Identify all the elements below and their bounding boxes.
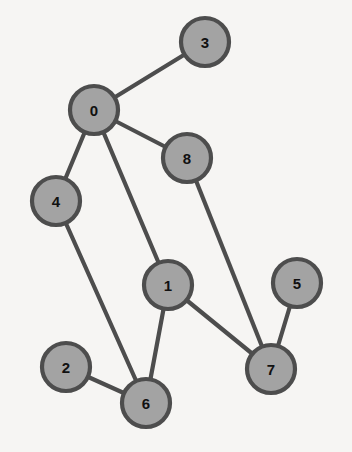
node-layer: 012345678 [32,18,321,427]
graph-node-8[interactable]: 8 [163,134,211,182]
graph-node-4[interactable]: 4 [32,177,80,225]
graph-canvas: 012345678 [0,0,352,452]
graph-node-0[interactable]: 0 [70,86,118,134]
graph-node-circle-6[interactable] [122,379,170,427]
graph-node-circle-3[interactable] [181,18,229,66]
graph-node-6[interactable]: 6 [122,379,170,427]
graph-edge-0-1 [94,110,168,285]
graph-node-7[interactable]: 7 [247,345,295,393]
graph-figure: 012345678 [0,0,352,452]
graph-node-3[interactable]: 3 [181,18,229,66]
graph-node-circle-4[interactable] [32,177,80,225]
graph-node-2[interactable]: 2 [42,343,90,391]
graph-node-1[interactable]: 1 [144,261,192,309]
graph-node-circle-5[interactable] [273,259,321,307]
graph-node-circle-7[interactable] [247,345,295,393]
graph-node-circle-0[interactable] [70,86,118,134]
graph-node-circle-2[interactable] [42,343,90,391]
graph-node-circle-1[interactable] [144,261,192,309]
graph-node-circle-8[interactable] [163,134,211,182]
graph-node-5[interactable]: 5 [273,259,321,307]
